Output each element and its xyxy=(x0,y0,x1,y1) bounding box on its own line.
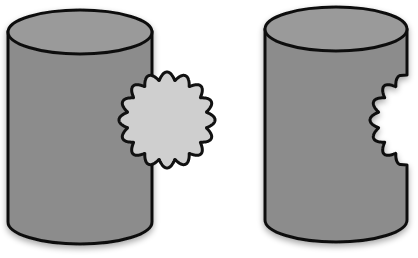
right-cylinder-body xyxy=(265,29,407,242)
right-cylinder-top xyxy=(265,7,407,51)
scalloped-disc xyxy=(119,72,215,168)
right-cylinder xyxy=(265,7,407,242)
diagram-canvas xyxy=(0,0,418,258)
left-cylinder-top xyxy=(8,10,152,54)
